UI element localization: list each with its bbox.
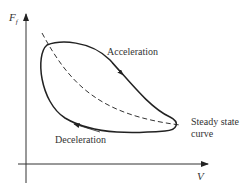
hysteresis-diagram: Ff V Acceleration Deceleration Steady st… bbox=[0, 0, 251, 193]
y-axis-label: Ff bbox=[8, 11, 19, 26]
deceleration-label: Deceleration bbox=[55, 134, 106, 145]
steady-state-label-line2: curve bbox=[191, 128, 214, 139]
acceleration-label: Acceleration bbox=[107, 46, 158, 57]
deceleration-arrow bbox=[74, 124, 100, 132]
steady-state-label-line1: Steady state bbox=[191, 116, 240, 127]
x-axis-label: V bbox=[197, 170, 205, 182]
acceleration-arrow bbox=[112, 63, 123, 75]
